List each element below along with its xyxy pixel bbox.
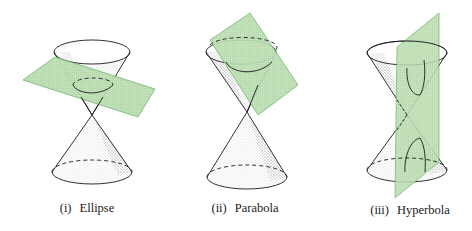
lower-cone: [52, 115, 132, 184]
lower-cone: [207, 112, 287, 189]
panel-ellipse: (i)Ellipse: [23, 40, 155, 215]
caption-hyperbola: (iii)Hyperbola: [370, 203, 450, 217]
panel-parabola: (ii)Parabola: [206, 13, 298, 215]
caption-parabola: (ii)Parabola: [211, 201, 278, 215]
conic-sections-diagram: (i)Ellipse (ii)Parabola: [0, 0, 472, 231]
panel-hyperbola: (iii)Hyperbola: [367, 13, 450, 217]
caption-ellipse: (i)Ellipse: [60, 201, 115, 215]
